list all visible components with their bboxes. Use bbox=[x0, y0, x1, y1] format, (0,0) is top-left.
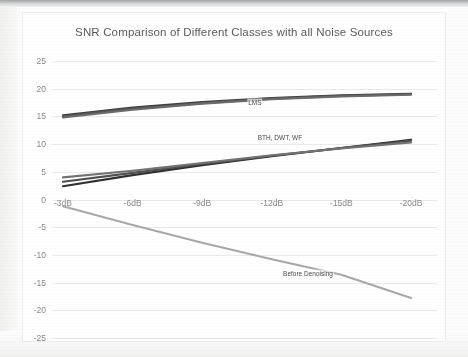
series-annotation: LMS bbox=[247, 98, 262, 105]
series-lines bbox=[0, 0, 468, 357]
series-annotation: Before Denoising bbox=[282, 270, 334, 277]
series-line bbox=[63, 95, 411, 118]
series-line bbox=[63, 206, 411, 298]
series-line bbox=[63, 94, 411, 116]
plot-area: 2520151050-5-10-15-20-25 -3dB-6dB-9dB-12… bbox=[0, 0, 468, 357]
series-line bbox=[63, 142, 411, 177]
scanned-page: SNR Comparison of Different Classes with… bbox=[0, 0, 468, 357]
series-annotation: BTH, DWT, WF bbox=[257, 133, 303, 140]
